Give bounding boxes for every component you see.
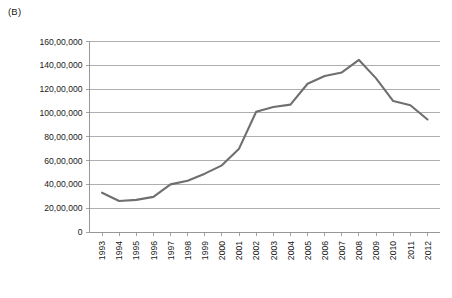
y-tickmarks-group [86, 42, 90, 233]
x-axis-tick-label: 1999 [200, 241, 210, 260]
x-axis-tick-label: 2009 [371, 241, 381, 260]
y-axis-tick-label: 0 [78, 227, 83, 237]
x-axis-tick-label: 1997 [166, 241, 176, 260]
x-axis-tick-label: 2000 [217, 241, 227, 260]
x-axis-tick-label: 1993 [97, 241, 107, 260]
x-axis-tick-label: 1995 [131, 241, 141, 260]
x-axis-tick-label: 1994 [114, 241, 124, 260]
y-axis-tick-label: 100,00,000 [39, 108, 82, 118]
gridlines-group [90, 42, 441, 209]
y-axis-tick-label: 60,00,000 [44, 156, 82, 166]
y-axis-tick-label: 160,00,000 [39, 37, 82, 47]
x-axis-tick-label: 2008 [354, 241, 364, 260]
x-axis-tick-label: 2005 [303, 241, 313, 260]
chart-svg: 020,00,00040,00,00060,00,00080,00,000100… [0, 0, 452, 298]
x-axis-tick-label: 2011 [406, 241, 416, 260]
x-axis-tick-label: 1996 [149, 241, 159, 260]
x-axis-tick-label: 1998 [183, 241, 193, 260]
y-axis-labels-group: 020,00,00040,00,00060,00,00080,00,000100… [39, 37, 82, 238]
series-line [102, 60, 428, 201]
y-axis-tick-label: 140,00,000 [39, 60, 82, 70]
x-axis-tick-label: 2004 [286, 241, 296, 260]
y-axis-tick-label: 120,00,000 [39, 84, 82, 94]
x-axis-tick-label: 2007 [337, 241, 347, 260]
x-axis-labels-group: 1993199419951996199719981999200020012002… [97, 241, 433, 260]
x-axis-tick-label: 2001 [234, 241, 244, 260]
x-axis-tick-label: 2003 [269, 241, 279, 260]
x-axis-tick-label: 2002 [251, 241, 261, 260]
y-axis-tick-label: 20,00,000 [44, 203, 82, 213]
line-chart: 020,00,00040,00,00060,00,00080,00,000100… [0, 0, 452, 298]
figure-container: (B) 020,00,00040,00,00060,00,00080,00,00… [0, 0, 452, 298]
x-tickmarks-group [102, 232, 428, 236]
data-series-group [102, 60, 428, 201]
x-axis-tick-label: 2012 [423, 241, 433, 260]
x-axis-tick-label: 2010 [388, 241, 398, 260]
x-axis-tick-label: 2006 [320, 241, 330, 260]
y-axis-tick-label: 40,00,000 [44, 179, 82, 189]
y-axis-tick-label: 80,00,000 [44, 132, 82, 142]
